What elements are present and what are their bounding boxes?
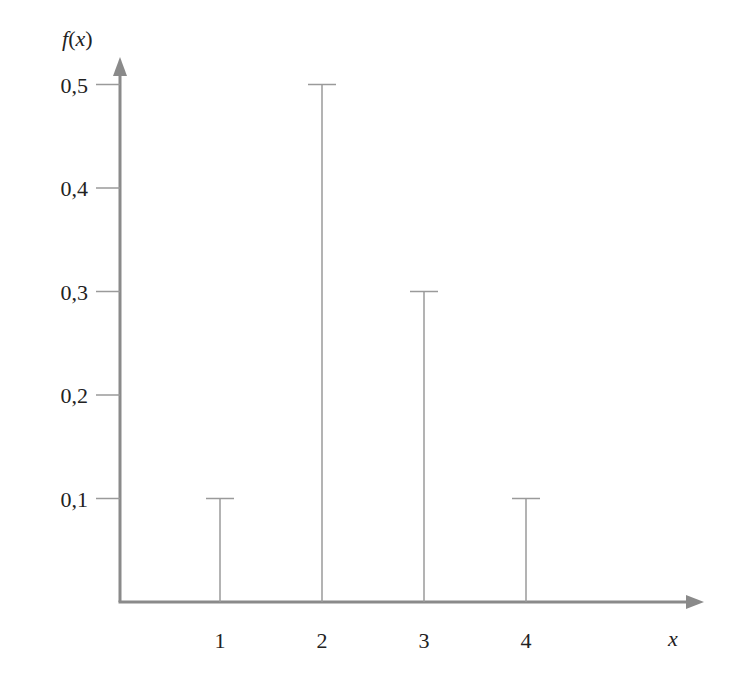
x-tick-label: 4	[521, 628, 532, 653]
stems	[206, 85, 540, 603]
axes	[113, 57, 704, 609]
y-tick-label: 0,3	[61, 280, 89, 305]
y-tick-label: 0,1	[61, 487, 89, 512]
x-tick-label: 1	[215, 628, 226, 653]
y-tick-label: 0,4	[61, 176, 89, 201]
y-axis-arrow-icon	[113, 57, 127, 76]
x-axis-arrow-icon	[686, 595, 704, 609]
x-tick-label: 2	[317, 628, 328, 653]
x-axis-label: x	[667, 626, 678, 651]
y-axis-ticks: 0,10,20,30,40,5	[61, 73, 121, 512]
y-tick-label: 0,2	[61, 383, 89, 408]
x-tick-label: 3	[419, 628, 430, 653]
y-tick-label: 0,5	[61, 73, 89, 98]
x-axis-tick-labels: 1234	[215, 628, 532, 653]
probability-stem-chart: 0,10,20,30,40,5 1234 f(x) x	[0, 0, 733, 681]
y-axis-label: f(x)	[62, 26, 93, 51]
